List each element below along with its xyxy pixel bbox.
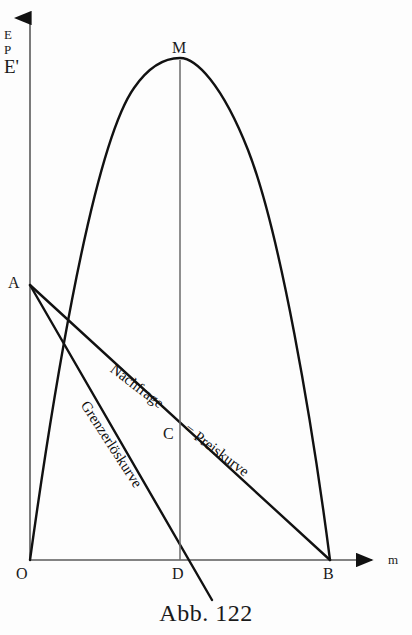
x-axis-label-m: m bbox=[388, 553, 398, 566]
point-label-a: A bbox=[8, 275, 20, 291]
figure-page: E P E' m O A M C D B Nachfrage- = Preisk… bbox=[0, 0, 412, 635]
point-label-o: O bbox=[16, 566, 28, 582]
y-axis-label-e: E bbox=[4, 28, 28, 41]
point-label-m: M bbox=[172, 40, 186, 56]
point-label-c: C bbox=[163, 426, 174, 442]
diagram-canvas bbox=[0, 0, 412, 635]
figure-caption: Abb. 122 bbox=[0, 600, 412, 627]
y-axis-label-e-prime: E' bbox=[4, 57, 28, 76]
point-label-b: B bbox=[323, 566, 334, 582]
point-label-d: D bbox=[172, 566, 184, 582]
marginal-revenue-line bbox=[30, 285, 212, 600]
y-axis-label-p: P bbox=[4, 43, 28, 56]
y-axis-label-stack: E P E' bbox=[4, 28, 28, 76]
